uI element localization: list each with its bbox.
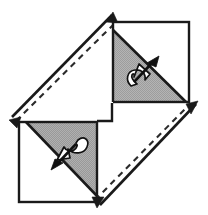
symmetry-diagram (0, 0, 208, 215)
figure-container: Black and white line diagram: two square… (0, 0, 208, 215)
center-overlap-mask (97, 102, 113, 120)
upper-left-axis-shaft (12, 15, 112, 117)
lower-right-axis-shaft (100, 104, 196, 205)
